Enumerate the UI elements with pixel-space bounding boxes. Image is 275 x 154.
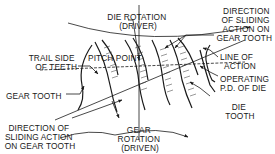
label-trail-side: TRAIL SIDE OF TEETH — [29, 53, 77, 72]
label-pitch-point: PITCH POINT — [88, 53, 142, 63]
label-die-rotation: DIE ROTATION (DRIVER) — [107, 12, 168, 31]
leader-lines — [66, 20, 218, 118]
label-operating-pd: OPERATING P.D. OF DIE — [220, 74, 272, 93]
gear-die-diagram: DIE ROTATION (DRIVER) DIRECTION OF SLIDI… — [0, 0, 275, 154]
label-direction-sliding-top: DIRECTION OF SLIDING ACTION ON GEAR TOOT… — [216, 6, 272, 43]
label-die-tooth: DIE TOOTH — [225, 102, 254, 121]
teeth-profiles — [95, 38, 215, 112]
line-of-action — [55, 40, 245, 120]
label-gear-tooth: GEAR TOOTH — [6, 91, 62, 101]
label-gear-rotation: GEAR ROTATION (DRIVEN) — [118, 125, 163, 153]
label-line-of-action: LINE OF ACTION — [220, 52, 256, 71]
label-direction-sliding-bottom: DIRECTION OF SLIDING ACTION ON GEAR TOOT… — [5, 123, 76, 151]
